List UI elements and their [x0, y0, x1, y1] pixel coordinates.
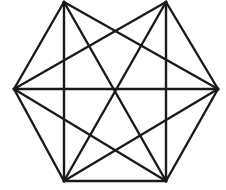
vertex-top-left [62, 0, 65, 3]
vertex-top-right [164, 0, 167, 3]
edge-C-D [166, 89, 218, 181]
vertex-bottom-right [164, 179, 167, 182]
hexagon-graph-diagram [0, 0, 226, 190]
vertex-bottom-left [62, 179, 65, 182]
edge-B-C [166, 2, 218, 89]
edge-group [12, 0, 219, 182]
vertex-left [12, 87, 15, 90]
vertex-right [216, 87, 219, 90]
